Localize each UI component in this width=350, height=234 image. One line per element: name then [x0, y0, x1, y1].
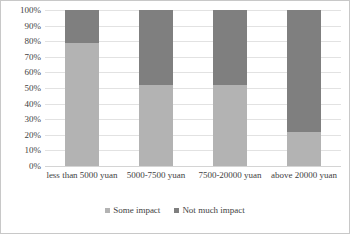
bar-slot: [119, 10, 193, 166]
y-axis-tick-label: 20%: [25, 130, 42, 139]
legend-item[interactable]: Some impact: [105, 205, 160, 215]
bar-slot: [267, 10, 341, 166]
stacked-bar[interactable]: [139, 10, 173, 166]
y-axis-tick-label: 90%: [25, 21, 42, 30]
plot-wrapper: 0%10%20%30%40%50%60%70%80%90%100% less t…: [1, 1, 349, 201]
stacked-bar[interactable]: [65, 10, 99, 166]
bar-segment[interactable]: [65, 10, 99, 43]
bar-group: [45, 10, 341, 166]
y-axis-tick-label: 30%: [25, 115, 42, 124]
legend-label: Some impact: [113, 205, 160, 215]
chart-legend: Some impactNot much impact: [1, 202, 349, 218]
bar-segment[interactable]: [139, 10, 173, 85]
bar-segment[interactable]: [139, 85, 173, 166]
y-axis-tick-label: 60%: [25, 68, 42, 77]
bar-segment[interactable]: [287, 10, 321, 132]
y-axis-tick-label: 70%: [25, 52, 42, 61]
bar-slot: [45, 10, 119, 166]
x-axis-category-label: 5000-7500 yuan: [119, 170, 193, 200]
plot-area: [45, 10, 341, 166]
legend-swatch-icon: [105, 208, 110, 213]
x-axis-category-label: above 20000 yuan: [267, 170, 341, 200]
x-axis-category-label: 7500-20000 yuan: [193, 170, 267, 200]
y-axis-tick-label: 100%: [20, 6, 41, 15]
chart-figure: 0%10%20%30%40%50%60%70%80%90%100% less t…: [0, 0, 350, 234]
legend-label: Not much impact: [182, 205, 245, 215]
legend-swatch-icon: [174, 208, 179, 213]
x-axis-labels: less than 5000 yuan5000-7500 yuan7500-20…: [45, 170, 341, 200]
bar-segment[interactable]: [213, 85, 247, 166]
y-axis-tick-label: 10%: [25, 146, 42, 155]
y-axis: 0%10%20%30%40%50%60%70%80%90%100%: [3, 10, 41, 166]
y-axis-tick-label: 80%: [25, 37, 42, 46]
stacked-bar[interactable]: [213, 10, 247, 166]
y-axis-tick-label: 50%: [25, 84, 42, 93]
y-axis-tick-label: 40%: [25, 99, 42, 108]
stacked-bar[interactable]: [287, 10, 321, 166]
bar-segment[interactable]: [287, 132, 321, 166]
legend-item[interactable]: Not much impact: [174, 205, 245, 215]
x-axis-category-label: less than 5000 yuan: [45, 170, 119, 200]
gridline: [45, 166, 341, 167]
bar-slot: [193, 10, 267, 166]
bar-segment[interactable]: [213, 10, 247, 85]
y-axis-tick-label: 0%: [29, 162, 41, 171]
bar-segment[interactable]: [65, 43, 99, 166]
